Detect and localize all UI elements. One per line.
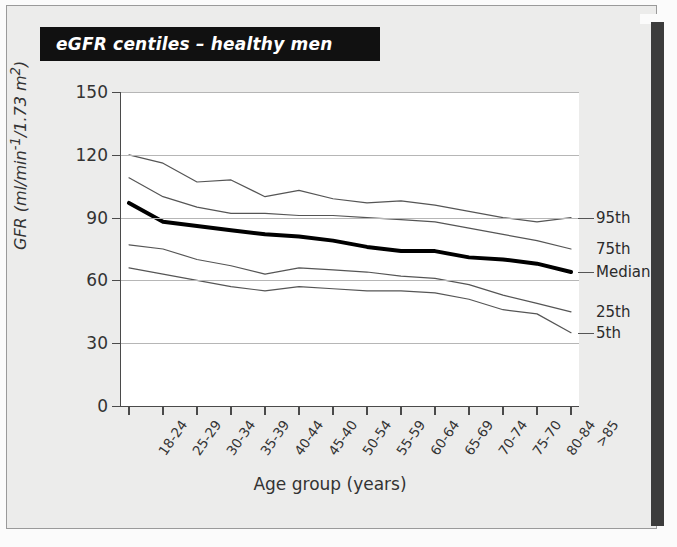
legend-leader-95th [578,218,594,219]
series-25th [129,245,571,312]
x-tick-9 [434,406,436,415]
series-5th [129,268,571,333]
y-tick-120 [112,155,121,156]
series-95th [129,155,571,222]
figure-title: eGFR centiles – healthy men [40,34,333,54]
legend-label-95th: 95th [596,209,630,227]
x-tick-10 [468,406,470,415]
plot-area [120,92,579,407]
x-axis-tick-labels: 18-2425-2930-3435-3940-4445-4050-5455-59… [120,406,578,476]
x-tick-12 [536,406,538,415]
page-background: eGFR centiles – healthy men GFR (ml/min-… [0,0,677,547]
x-tick-11 [502,406,504,415]
x-tick-label-3: 35-39 [257,417,293,458]
y-tick-label-60: 60 [86,270,108,290]
x-tick-4 [264,406,266,415]
y-tick-label-0: 0 [97,396,108,416]
series-median [129,203,571,272]
y-tick-30 [112,343,121,344]
x-tick-1 [162,406,164,415]
x-tick-label-0: 18-24 [155,417,191,458]
x-tick-5 [298,406,300,415]
legend-leader-median [578,272,594,273]
x-axis-title: Age group (years) [20,474,640,494]
x-tick-13 [570,406,572,415]
x-tick-label-2: 30-34 [223,417,259,458]
x-tick-label-4: 40-44 [291,417,327,458]
gridline-90 [121,218,579,219]
book-binding-shadow [651,22,664,526]
x-tick-label-11: 75-70 [529,417,565,458]
figure-title-banner: eGFR centiles – healthy men [40,27,380,61]
gridline-60 [121,280,579,281]
y-tick-label-120: 120 [76,145,108,165]
x-tick-6 [332,406,334,415]
series-75th [129,178,571,249]
legend-label-5th: 5th [596,324,621,342]
legend-label-25th: 25th [596,303,630,321]
x-tick-7 [366,406,368,415]
y-tick-label-150: 150 [76,82,108,102]
gridline-120 [121,155,579,156]
legend-label-75th: 75th [596,240,630,258]
y-tick-60 [112,280,121,281]
percentile-curves [121,92,579,406]
x-tick-3 [230,406,232,415]
y-tick-label-30: 30 [86,333,108,353]
y-tick-150 [112,92,121,93]
x-tick-label-13: >85 [592,417,621,450]
x-tick-label-8: 60-64 [427,417,463,458]
x-tick-label-9: 65-69 [461,417,497,458]
chart-container: GFR (ml/min-1/1.73 m2) 0306090120150 18-… [20,70,640,530]
legend-leader-5th [578,333,594,334]
x-tick-2 [196,406,198,415]
x-tick-8 [400,406,402,415]
x-tick-label-1: 25-29 [189,417,225,458]
y-tick-90 [112,218,121,219]
legend: 95th75thMedian25th5th [578,92,640,406]
x-tick-0 [128,406,130,415]
gridline-150 [121,92,579,93]
x-tick-label-6: 50-54 [359,417,395,458]
x-tick-label-10: 70-74 [495,417,531,458]
legend-label-median: Median [596,263,651,281]
gridline-30 [121,343,579,344]
x-tick-label-5: 45-40 [325,417,361,458]
y-tick-label-90: 90 [86,208,108,228]
x-tick-label-7: 55-59 [393,417,429,458]
y-axis-tick-labels: 0306090120150 [20,70,120,406]
